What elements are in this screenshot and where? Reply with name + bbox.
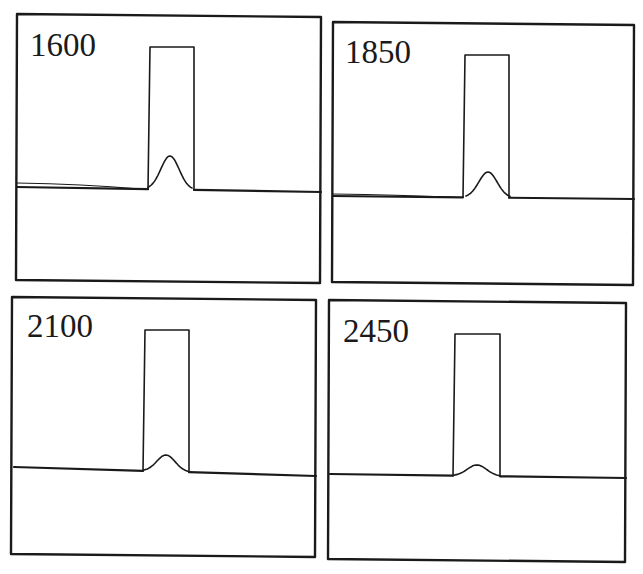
rectangular-pulse — [143, 330, 189, 472]
smoothed-peak — [454, 465, 500, 476]
panel-label: 1600 — [30, 27, 96, 63]
rectangular-pulse — [148, 47, 194, 190]
panel-1600: 1600 — [16, 14, 321, 283]
baseline-line — [333, 196, 634, 199]
baseline-line — [17, 187, 321, 192]
baseline-line — [14, 467, 316, 476]
rectangular-pulse — [463, 55, 509, 198]
smoothed-peak — [466, 172, 510, 196]
smoothed-peak — [144, 455, 188, 471]
baseline-line — [330, 474, 626, 478]
panel-label: 2100 — [27, 308, 93, 344]
panel-1850: 1850 — [332, 22, 634, 285]
rectangular-pulse — [453, 334, 500, 476]
panel-2100: 2100 — [11, 297, 316, 557]
panel-label: 2450 — [343, 313, 409, 349]
figure-canvas: 1600 1850 2100 2450 — [0, 0, 643, 574]
smoothed-peak — [148, 156, 192, 188]
panel-2450: 2450 — [328, 300, 626, 562]
panel-label: 1850 — [345, 34, 411, 70]
